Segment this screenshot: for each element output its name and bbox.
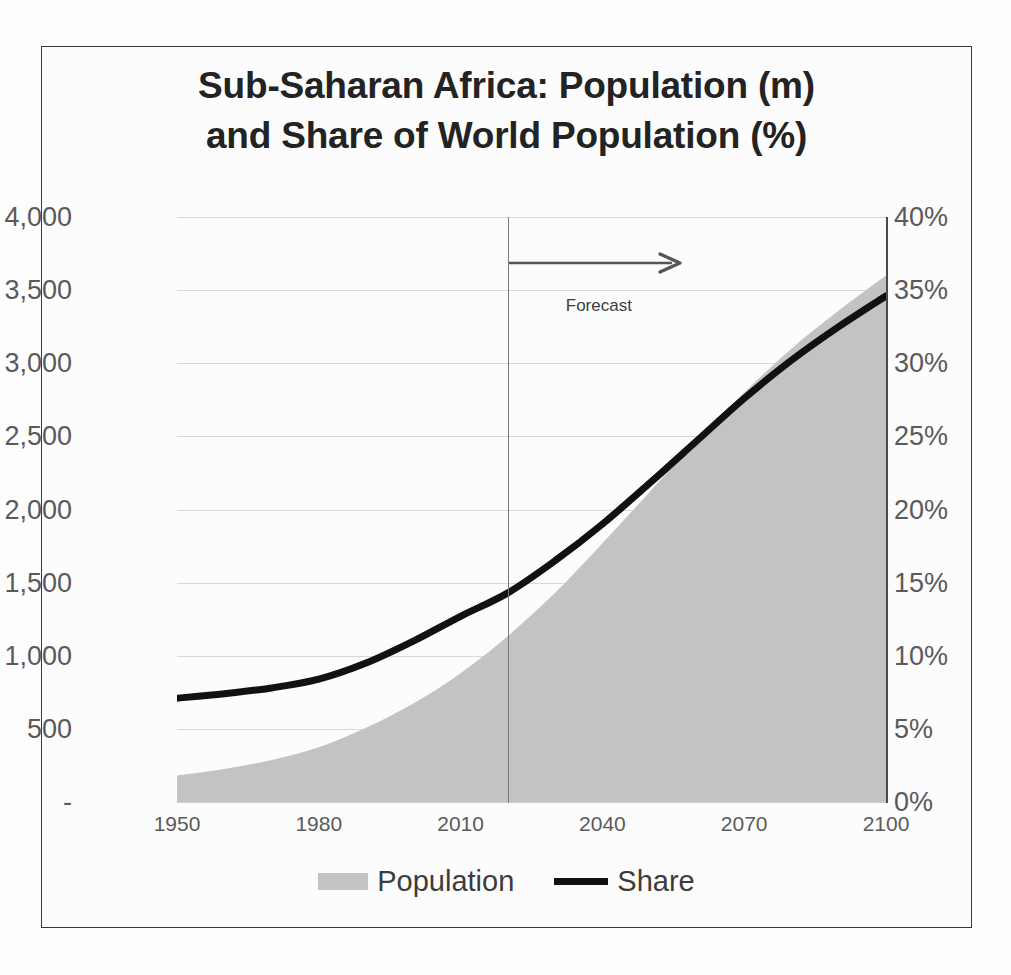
right-axis-tick-label: 35% [894, 275, 948, 306]
x-axis-tick-label: 2070 [721, 812, 768, 836]
left-axis-tick-label: 2,500 [4, 421, 72, 452]
right-axis-tick-label: 10% [894, 640, 948, 671]
chart-legend: Population Share [42, 865, 971, 898]
left-axis-tick-label: 3,500 [4, 275, 72, 306]
x-axis-tick-label: 2040 [579, 812, 626, 836]
right-axis-tick-label: 20% [894, 494, 948, 525]
left-axis-tick-label: 1,500 [4, 567, 72, 598]
right-axis-tick-label: 30% [894, 348, 948, 379]
x-axis-line [177, 802, 886, 803]
right-axis-tick-label: 25% [894, 421, 948, 452]
population-area [177, 276, 886, 803]
population-swatch-icon [318, 873, 368, 890]
left-axis-tick-label: 1,000 [4, 640, 72, 671]
left-axis-tick-label: 3,000 [4, 348, 72, 379]
left-axis-tick-label: 2,000 [4, 494, 72, 525]
legend-label-share: Share [617, 865, 694, 898]
left-axis-tick-label: 4,000 [4, 202, 72, 233]
x-axis-tick-label: 1950 [154, 812, 201, 836]
right-axis-spine [886, 217, 888, 803]
left-axis-tick-label: 500 [27, 713, 72, 744]
chart-frame: Sub-Saharan Africa: Population (m) and S… [41, 46, 972, 928]
right-axis-tick-label: 5% [894, 713, 933, 744]
share-swatch-icon [554, 878, 608, 885]
legend-label-population: Population [377, 865, 514, 898]
x-axis-tick-label: 1980 [295, 812, 342, 836]
right-axis-tick-label: 15% [894, 567, 948, 598]
legend-item-population[interactable]: Population [318, 865, 514, 898]
left-axis-tick-label: - [63, 787, 72, 818]
legend-item-share[interactable]: Share [554, 865, 694, 898]
chart-page: Sub-Saharan Africa: Population (m) and S… [0, 0, 1011, 975]
forecast-arrow-icon [508, 252, 690, 274]
forecast-label: Forecast [508, 296, 690, 316]
x-axis-tick-label: 2100 [863, 812, 910, 836]
right-axis-tick-label: 40% [894, 202, 948, 233]
chart-title: Sub-Saharan Africa: Population (m) and S… [42, 61, 971, 160]
x-axis-tick-label: 2010 [437, 812, 484, 836]
chart-title-line-2: and Share of World Population (%) [42, 111, 971, 161]
chart-title-line-1: Sub-Saharan Africa: Population (m) [42, 61, 971, 111]
